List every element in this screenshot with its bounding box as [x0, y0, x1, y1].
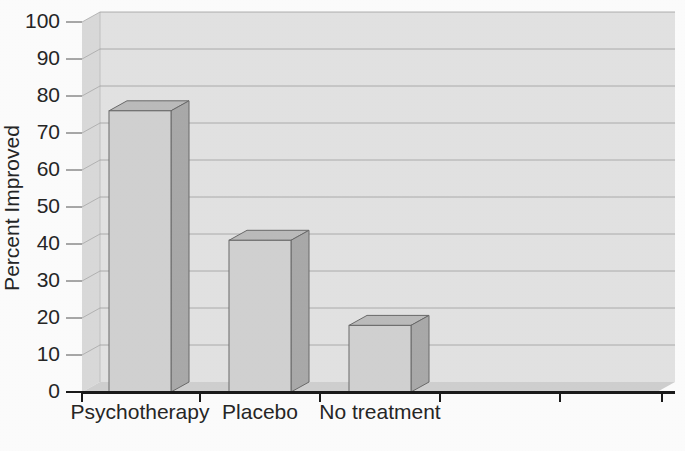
y-tick-label: 90 — [37, 46, 60, 69]
y-tick-label: 70 — [37, 120, 60, 143]
bar-side-face — [171, 101, 189, 392]
bar-front-face — [349, 325, 411, 392]
y-tick-group — [66, 22, 82, 392]
y-tick-label: 20 — [37, 305, 60, 328]
y-tick-label: 40 — [37, 231, 60, 254]
y-tick-label: 60 — [37, 157, 60, 180]
y-axis-title: Percent Improved — [0, 125, 23, 291]
y-tick-label: 80 — [37, 83, 60, 106]
x-tick-label: Psychotherapy — [71, 400, 210, 423]
bar-placebo — [229, 230, 309, 392]
bar-side-face — [411, 315, 429, 392]
y-tick-label: 50 — [37, 194, 60, 217]
bar-psychotherapy — [109, 101, 189, 392]
x-tick-label: No treatment — [319, 400, 441, 423]
bar-chart-figure: 0102030405060708090100 PsychotherapyPlac… — [0, 0, 685, 451]
y-tick-label-group: 0102030405060708090100 — [25, 9, 60, 402]
chart-canvas: 0102030405060708090100 PsychotherapyPlac… — [0, 0, 685, 451]
bar-side-face — [291, 230, 309, 392]
y-tick-label: 10 — [37, 342, 60, 365]
bar-front-face — [229, 240, 291, 392]
y-tick-label: 30 — [37, 268, 60, 291]
bar-front-face — [109, 111, 171, 392]
y-tick-label: 100 — [25, 9, 60, 32]
x-tick-label-group: PsychotherapyPlaceboNo treatment — [71, 400, 441, 423]
y-tick-label: 0 — [48, 379, 60, 402]
x-tick-label: Placebo — [222, 400, 298, 423]
bar-no-treatment — [349, 315, 429, 392]
